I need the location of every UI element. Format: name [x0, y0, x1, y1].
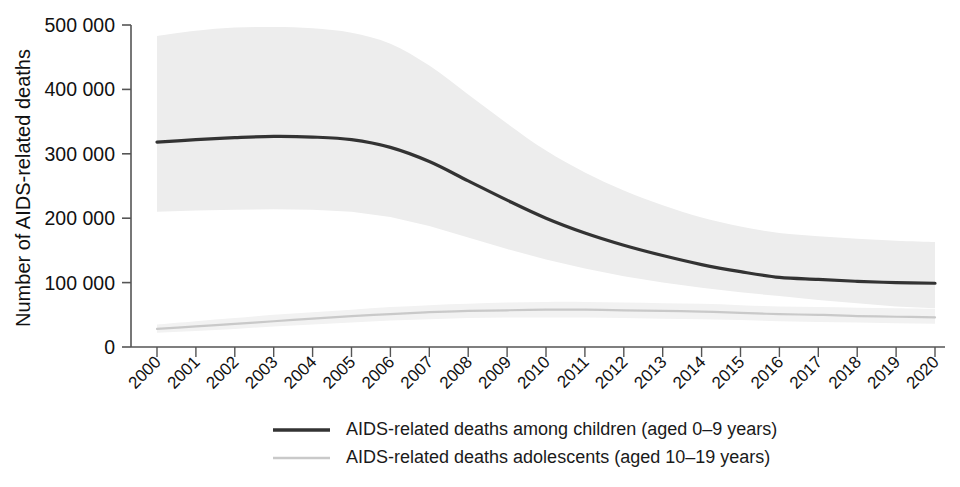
y-tick-label: 300 000 — [45, 143, 116, 165]
y-tick-label: 100 000 — [45, 272, 116, 294]
y-tick-label: 400 000 — [45, 78, 116, 100]
y-tick-label: 200 000 — [45, 207, 116, 229]
aids-related-deaths-line-chart: Number of AIDS-related deaths 0100 00020… — [0, 0, 960, 487]
legend-label: AIDS-related deaths adolescents (aged 10… — [346, 447, 770, 467]
legend-label: AIDS-related deaths among children (aged… — [346, 419, 777, 439]
chart-container: Number of AIDS-related deaths 0100 00020… — [0, 0, 960, 487]
y-tick-label: 0 — [104, 336, 115, 358]
y-axis-title: Number of AIDS-related deaths — [12, 49, 34, 327]
y-tick-label: 500 000 — [45, 14, 116, 36]
